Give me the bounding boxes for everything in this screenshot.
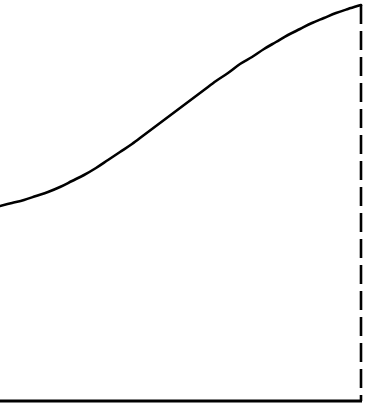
chart-container [0,0,379,416]
chart-background [0,0,379,416]
line-chart-svg [0,0,379,416]
